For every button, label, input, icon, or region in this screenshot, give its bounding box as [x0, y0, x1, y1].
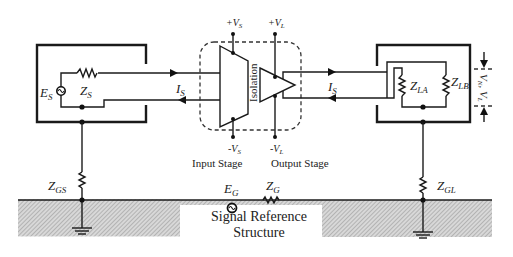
output-stage-label: Output Stage — [271, 157, 329, 169]
vn-vl-label: VN, VL — [476, 74, 490, 102]
current-is-right-label: IS — [327, 79, 337, 96]
vs-minus-label: -VS — [228, 143, 241, 156]
reference-structure-line2: Structure — [233, 225, 284, 240]
zgs-label: ZGS — [48, 178, 67, 195]
arrow-right-icon — [328, 68, 336, 76]
arrow-right-icon — [170, 69, 178, 77]
zg-label: ZG — [266, 178, 280, 195]
isolation-barrier-label: Isolation — [247, 63, 259, 102]
isolation-amplifier — [200, 32, 318, 139]
vl-minus-label: -VL — [270, 143, 283, 156]
vl-plus-label: +VL — [268, 17, 285, 30]
zlb-label: ZLB — [451, 74, 469, 91]
input-stage-label: Input Stage — [192, 157, 243, 169]
es-label: ES — [39, 85, 53, 102]
reference-structure-line1: Signal Reference — [211, 209, 307, 224]
zla-label: ZLA — [410, 78, 428, 95]
vs-plus-label: +VS — [226, 17, 243, 30]
current-is-left-label: IS — [175, 81, 185, 98]
isolation-amplifier-diagram: ES ZS IS Isolation +VS +VL -VS -VL Input… — [0, 0, 513, 257]
source-es-icon — [57, 87, 65, 95]
eg-label: EG — [223, 181, 239, 198]
source-enclosure — [37, 45, 177, 125]
zs-label: ZS — [80, 83, 92, 100]
zgl-label: ZGL — [437, 178, 456, 195]
